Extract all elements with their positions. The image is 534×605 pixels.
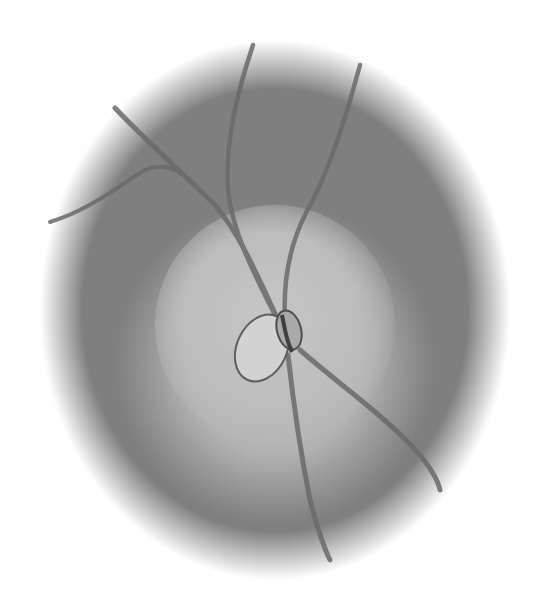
blood-vessels [0, 0, 534, 605]
fundus-image [0, 0, 534, 605]
optic-disc [225, 306, 306, 391]
